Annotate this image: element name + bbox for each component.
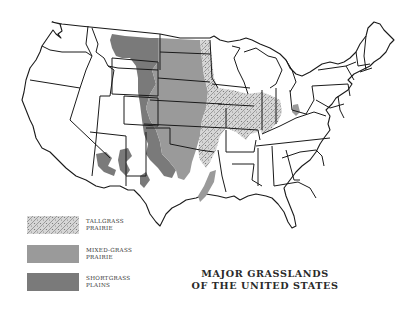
map-title-line1: MAJOR GRASSLANDS xyxy=(190,268,340,280)
legend-label-mixedgrass: MIXED-GRASS PRAIRIE xyxy=(86,247,132,260)
tallgrass-swatch xyxy=(27,216,79,234)
map-title-line2: OF THE UNITED STATES xyxy=(190,280,340,292)
legend-tallgrass-line2: PRAIRIE xyxy=(86,225,124,232)
legend-tallgrass-line1: TALLGRASS xyxy=(86,218,124,225)
legend-label-shortgrass: SHORTGRASS PLAINS xyxy=(86,275,130,288)
legend-shortgrass-line1: SHORTGRASS xyxy=(86,275,130,282)
legend-label-tallgrass: TALLGRASS PRAIRIE xyxy=(86,218,124,231)
legend-mixedgrass-line1: MIXED-GRASS xyxy=(86,247,132,254)
shortgrass-swatch xyxy=(27,273,79,291)
us-grasslands-map xyxy=(0,0,415,313)
mixedgrass-swatch xyxy=(27,245,79,263)
legend-mixedgrass-line2: PRAIRIE xyxy=(86,254,132,261)
legend-shortgrass-line2: PLAINS xyxy=(86,282,130,289)
map-title: MAJOR GRASSLANDS OF THE UNITED STATES xyxy=(190,268,340,292)
